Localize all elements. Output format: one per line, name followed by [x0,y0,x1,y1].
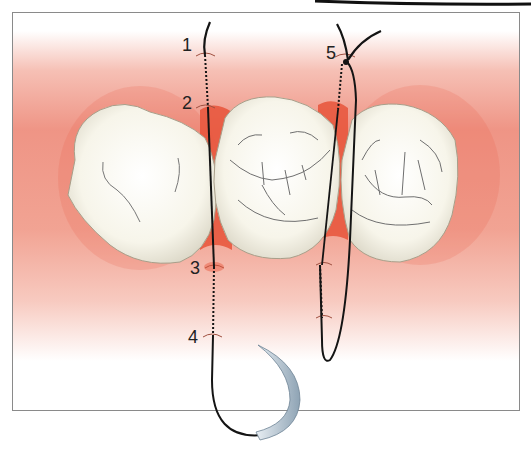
label-1: 1 [182,36,192,54]
curved-needle [256,345,300,440]
label-2: 2 [182,94,192,112]
middle-tooth [214,97,340,259]
label-3: 3 [190,259,200,277]
right-tooth [341,104,458,262]
label-4: 4 [188,328,198,346]
label-5: 5 [326,44,336,62]
suture-knot [343,59,349,65]
suture-illustration [0,0,531,453]
